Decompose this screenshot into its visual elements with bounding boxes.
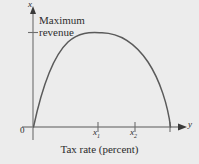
maximum-revenue-line1: Maximum [39, 14, 85, 26]
tick-label-x1-subscript: 1 [97, 133, 100, 139]
revenue-curve [34, 33, 171, 127]
horizontal-axis-label: y [188, 120, 192, 129]
tick-label-x1: x1 [93, 128, 100, 139]
origin-label: 0 [20, 126, 25, 135]
figure-caption: Tax rate (percent) [0, 143, 199, 155]
horizontal-axis-arrow-icon [178, 124, 187, 131]
vertical-axis-label: x [28, 0, 32, 9]
tick-label-x2-subscript: 2 [134, 133, 137, 139]
laffer-curve-figure: x y 0 Maximum revenue x1 x2 Tax rate (pe… [0, 0, 199, 164]
maximum-revenue-line2: revenue [39, 27, 85, 39]
tick-label-x2: x2 [130, 128, 137, 139]
maximum-revenue-annotation: Maximum revenue [39, 15, 85, 38]
plot-area [0, 0, 199, 164]
